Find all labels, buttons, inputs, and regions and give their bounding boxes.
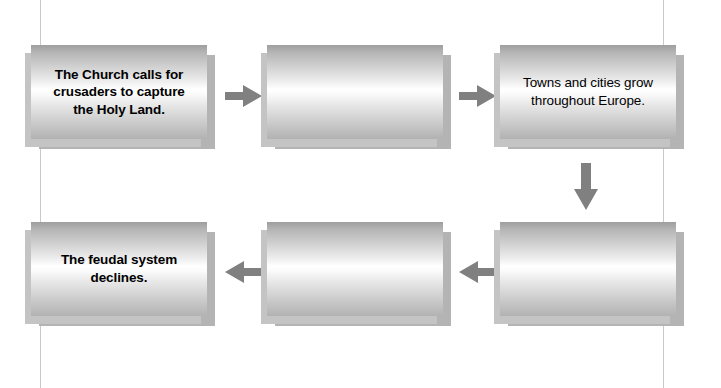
arrow-down-box3-to-box4 bbox=[573, 163, 599, 211]
flow-box-2[interactable] bbox=[267, 45, 443, 139]
arrow-right-box1-to-box2 bbox=[225, 83, 263, 109]
flow-box-5[interactable] bbox=[267, 222, 443, 316]
flowchart-canvas: The Church calls for crusaders to captur… bbox=[0, 0, 721, 388]
arrow-left-box5-to-box6 bbox=[225, 259, 263, 285]
flow-box-5-face bbox=[267, 222, 443, 316]
arrow-left-box4-to-box5 bbox=[459, 259, 497, 285]
flow-box-1-face: The Church calls for crusaders to captur… bbox=[31, 45, 207, 139]
flow-box-6-face: The feudal system declines. bbox=[31, 222, 207, 316]
flow-box-1-label: The Church calls for crusaders to captur… bbox=[43, 66, 195, 119]
flow-box-1[interactable]: The Church calls for crusaders to captur… bbox=[31, 45, 207, 139]
arrow-right-box2-to-box3 bbox=[459, 83, 497, 109]
flow-box-3-face: Towns and cities grow throughout Europe. bbox=[500, 45, 676, 139]
flow-box-4[interactable] bbox=[500, 222, 676, 316]
flow-box-6[interactable]: The feudal system declines. bbox=[31, 222, 207, 316]
flow-box-3[interactable]: Towns and cities grow throughout Europe. bbox=[500, 45, 676, 139]
flow-box-3-label: Towns and cities grow throughout Europe. bbox=[512, 74, 664, 109]
flow-box-4-face bbox=[500, 222, 676, 316]
flow-box-6-label: The feudal system declines. bbox=[43, 251, 195, 286]
flow-box-2-face bbox=[267, 45, 443, 139]
